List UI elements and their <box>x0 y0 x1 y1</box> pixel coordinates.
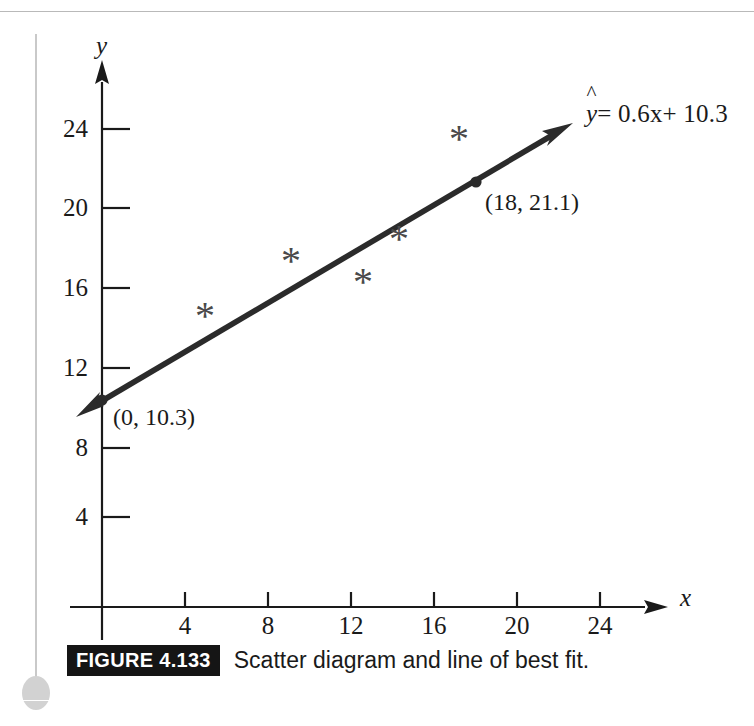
figure-caption: FIGURE 4.133 Scatter diagram and line of… <box>67 645 589 676</box>
point-label-upper: (18, 21.1) <box>485 189 579 216</box>
fit-line-segment <box>95 133 556 405</box>
figure-page: * * * * * y x 4 8 12 16 20 24 4 8 12 16 … <box>0 0 754 726</box>
hat-accent-icon: ^ <box>587 83 597 104</box>
data-point-asterisk: * <box>449 116 469 161</box>
x-tick-label: 16 <box>422 612 447 640</box>
y-tick-label: 20 <box>63 194 88 222</box>
data-point-asterisk: * <box>281 238 301 283</box>
data-point-asterisk: * <box>389 216 409 261</box>
data-point-asterisk: * <box>195 293 215 338</box>
x-tick-label: 8 <box>262 612 275 640</box>
x-axis-arrowhead <box>644 600 668 614</box>
y-hat-symbol: ^y <box>586 100 597 128</box>
fit-line-arrowhead-right <box>542 123 573 146</box>
data-point-asterisk: * <box>353 259 373 304</box>
axes <box>70 60 668 640</box>
figure-caption-text: Scatter diagram and line of best fit. <box>234 649 589 672</box>
x-tick-label: 4 <box>179 612 192 640</box>
page-bottom-rule <box>0 700 754 701</box>
x-axis-label: x <box>680 584 691 612</box>
point-label-intercept: (0, 10.3) <box>113 404 195 431</box>
y-tick-label: 24 <box>63 115 88 143</box>
y-tick-label: 16 <box>63 274 88 302</box>
x-tick-label: 12 <box>339 612 364 640</box>
marked-point-intercept <box>96 394 107 405</box>
figure-number-tag: FIGURE 4.133 <box>67 645 220 676</box>
equation-rhs: = 0.6x+ 10.3 <box>597 100 728 127</box>
regression-equation-label: ^y= 0.6x+ 10.3 <box>586 100 728 128</box>
y-tick-label: 12 <box>63 354 88 382</box>
marked-point-upper <box>470 176 481 187</box>
y-axis-label: y <box>96 32 107 60</box>
x-axis-ticks <box>185 592 600 607</box>
y-tick-label: 4 <box>76 503 89 531</box>
y-axis-ticks <box>102 129 130 517</box>
y-axis-arrowhead <box>95 60 109 84</box>
line-of-best-fit <box>76 123 573 417</box>
x-tick-label: 20 <box>505 612 530 640</box>
data-markers: * * * * * <box>195 116 469 338</box>
x-tick-label: 24 <box>588 612 613 640</box>
y-tick-label: 8 <box>76 434 89 462</box>
